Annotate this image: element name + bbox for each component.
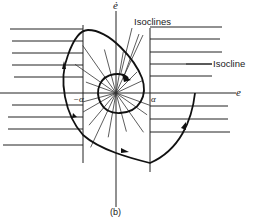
isoclines-leader-line bbox=[124, 34, 139, 76]
radial-isocline-ray bbox=[116, 80, 143, 93]
pos-alpha-label: α bbox=[151, 94, 156, 104]
phase-plane-diagram: ė e Isoclines Isocline −α α (b) bbox=[0, 0, 253, 220]
radial-isocline-ray bbox=[89, 93, 116, 125]
radial-isocline-ray bbox=[116, 35, 143, 93]
isocline-label: Isocline bbox=[213, 58, 245, 69]
trajectory-arrow-icon bbox=[181, 122, 186, 130]
radial-isoclines bbox=[75, 35, 150, 147]
isoclines-label: Isoclines bbox=[134, 16, 171, 27]
radial-isocline-ray bbox=[91, 93, 116, 147]
neg-alpha-label: −α bbox=[73, 94, 84, 104]
edot-axis-label: ė bbox=[113, 0, 118, 11]
e-axis-label: e bbox=[236, 86, 241, 98]
figure-caption: (b) bbox=[110, 207, 121, 217]
trajectory-arrow-icon bbox=[122, 74, 131, 82]
trajectory-arrow-icon bbox=[121, 148, 129, 153]
radial-isocline-ray bbox=[108, 93, 116, 137]
radial-isocline-ray bbox=[116, 93, 150, 105]
